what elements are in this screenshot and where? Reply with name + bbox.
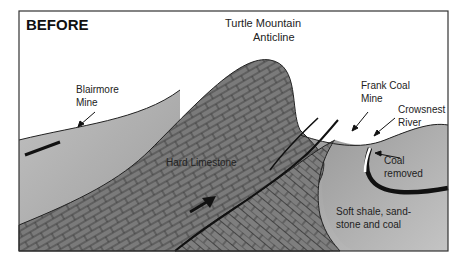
river-label-1: Crowsnest <box>398 104 445 116</box>
shale-label-1: Soft shale, sand- <box>336 206 411 218</box>
before-title: BEFORE <box>26 16 89 33</box>
limestone-label: Hard Limestone <box>166 157 237 169</box>
blairmore-label-2: Mine <box>76 97 98 109</box>
river-label-2: River <box>398 117 421 129</box>
frank-label-1: Frank Coal <box>361 80 410 92</box>
anticline-label-2: Anticline <box>253 31 295 43</box>
coal-label-1: Coal <box>384 155 405 167</box>
anticline-label-1: Turtle Mountain <box>225 17 301 29</box>
frank-label-2: Mine <box>361 93 383 105</box>
coal-label-2: removed <box>384 168 423 180</box>
shale-label-2: stone and coal <box>336 219 401 231</box>
blairmore-label-1: Blairmore <box>76 84 119 96</box>
